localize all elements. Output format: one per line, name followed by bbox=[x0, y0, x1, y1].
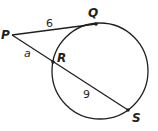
point-S-dot bbox=[126, 108, 130, 112]
length-RS: 9 bbox=[83, 88, 90, 101]
geometry-diagram: P Q R S 6 a 9 bbox=[0, 0, 158, 131]
label-S: S bbox=[132, 111, 141, 125]
tangent-segment-PQ bbox=[12, 24, 96, 35]
label-R: R bbox=[57, 51, 66, 65]
point-R-dot bbox=[51, 60, 55, 64]
circle bbox=[52, 23, 148, 119]
length-PQ: 6 bbox=[46, 17, 53, 30]
label-P: P bbox=[1, 28, 10, 42]
length-PR: a bbox=[24, 47, 31, 60]
label-Q: Q bbox=[88, 6, 98, 20]
point-Q-dot bbox=[94, 22, 98, 26]
